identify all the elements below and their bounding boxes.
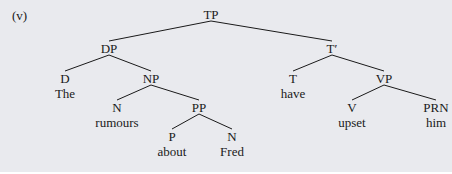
edge-np-pp [151,85,199,100]
node-d: D [60,72,69,85]
word-him: him [426,116,446,129]
node-pp: PP [192,101,206,114]
syntax-tree-diagram: (v) TPDPT′DTheNPThaveVPNrumoursPPVupsetP… [0,0,452,174]
word-about: about [158,145,187,158]
word-have: have [281,87,306,100]
edge-pp-p [172,114,199,129]
edge-dp-np [109,55,151,71]
node-dp: DP [101,42,118,55]
edge-tbar-vp [332,55,384,71]
node-vp: VP [376,72,393,85]
node-p: P [168,130,175,143]
node-tp: TP [203,8,218,21]
word-rumours: rumours [95,116,138,129]
bottom-border [0,172,452,174]
edge-dp-d [65,55,109,71]
word-upset: upset [338,116,365,129]
node-np: NP [143,72,160,85]
node-n2: N [227,130,236,143]
node-tbar: T′ [327,42,338,55]
edge-tp-tbar [211,21,332,41]
node-prn: PRN [423,101,448,114]
node-t: T [289,72,297,85]
edge-tbar-t [293,55,332,71]
edge-vp-prn [384,85,436,100]
word-fred: Fred [220,145,244,158]
edge-np-n1 [117,85,151,100]
word-the: The [55,87,75,100]
node-n1: N [112,101,121,114]
example-number: (v) [12,9,27,22]
node-v: V [347,101,356,114]
edge-pp-n2 [199,114,232,129]
edge-tp-dp [109,21,211,41]
edge-vp-v [352,85,384,100]
